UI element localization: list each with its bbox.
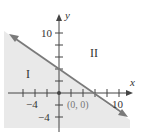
y-tick-label-neg4: −4: [38, 111, 50, 123]
shaded-region: [4, 31, 130, 128]
x-tick-label-neg4: −4: [26, 98, 38, 110]
inequality-graph: y x 10 −4 −4 10 (0, 0) I II: [0, 0, 146, 139]
x-axis-label: x: [129, 76, 135, 88]
region-label-i: I: [26, 67, 30, 81]
region-label-ii: II: [90, 46, 98, 60]
x-tick-label-10: 10: [112, 98, 124, 110]
x-axis-arrow-icon: [126, 90, 133, 96]
origin-point: [57, 91, 61, 95]
origin-label: (0, 0): [67, 99, 89, 111]
y-axis-label: y: [64, 9, 70, 21]
y-axis-arrow-icon: [56, 14, 62, 21]
y-tick-label-10: 10: [41, 27, 53, 39]
